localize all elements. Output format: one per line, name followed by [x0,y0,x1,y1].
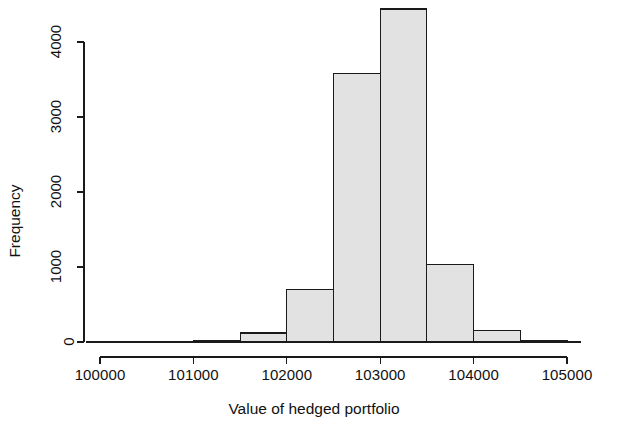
histogram-bar [380,9,427,342]
histogram-figure: 100000101000102000103000104000105000 010… [0,0,628,441]
x-tick-label: 104000 [448,366,499,383]
histogram-bar [427,265,474,342]
x-axis-label: Value of hedged portfolio [0,400,628,418]
y-axis-label: Frequency [4,0,26,441]
histogram-bar [334,74,381,343]
histogram-bar [474,331,521,342]
y-tick-label-text: 3000 [47,100,64,133]
x-tick-label: 100000 [75,366,126,383]
x-tick-label: 102000 [261,366,312,383]
x-tick-label: 103000 [355,366,406,383]
y-tick-label-text: 2000 [47,175,64,208]
y-tick-label-text: 1000 [47,250,64,283]
y-axis [77,42,84,342]
y-tick-label-text: 4000 [47,25,64,58]
histogram-bar [287,290,334,343]
x-axis-label-text: Value of hedged portfolio [228,400,399,417]
y-axis-label-text: Frequency [6,184,24,257]
histogram-bar [240,333,287,342]
y-tick-label-text: 0 [59,337,76,345]
x-tick-label: 101000 [168,366,219,383]
x-tick-label: 105000 [542,366,593,383]
x-axis [100,357,567,364]
bars-group [193,9,567,342]
